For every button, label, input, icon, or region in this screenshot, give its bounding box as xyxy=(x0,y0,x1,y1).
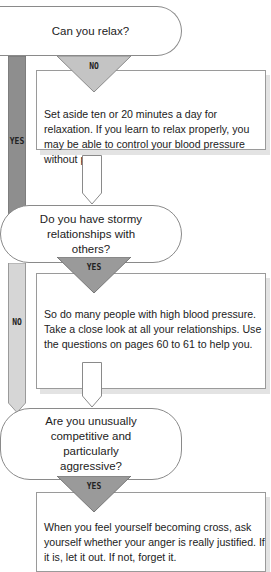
branch-label-yes-3: YES xyxy=(74,482,114,491)
question-2-text: Do you have stormy relationships with ot… xyxy=(31,212,151,257)
branch-label-yes-1: YES xyxy=(6,137,28,146)
question-3: Are you unusually competitive and partic… xyxy=(0,408,182,480)
down-arrow-1 xyxy=(82,155,102,209)
answer-3-text: When you feel yourself becoming cross, a… xyxy=(44,520,266,565)
answer-2-text: So do many people with high blood pressu… xyxy=(44,307,266,352)
answer-1-text: Set aside ten or 20 minutes a day for re… xyxy=(44,107,266,167)
question-1-text: Can you relax? xyxy=(52,24,129,39)
branch-label-no-1: NO xyxy=(74,62,114,71)
question-3-text: Are you unusually competitive and partic… xyxy=(36,414,146,474)
down-arrow-2 xyxy=(82,362,102,412)
branch-label-no-2: NO xyxy=(6,318,28,327)
branch-label-yes-2: YES xyxy=(74,263,114,272)
no-side-bar xyxy=(8,263,26,413)
question-1: Can you relax? xyxy=(0,6,182,56)
question-2: Do you have stormy relationships with ot… xyxy=(0,205,182,263)
